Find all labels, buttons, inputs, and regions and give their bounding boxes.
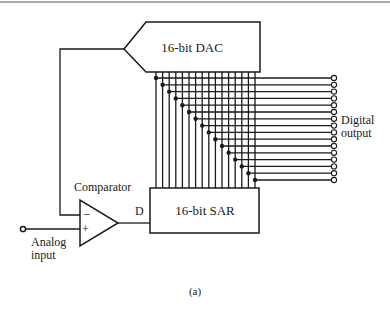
digital-output-terminal [331, 96, 336, 101]
junction-dot [233, 157, 237, 161]
digital-output-terminal [331, 143, 336, 148]
comparator: Comparator − + D [74, 180, 150, 246]
digital-output-terminal [331, 116, 336, 121]
bit-bus [154, 72, 337, 188]
comparator-output-label: D [135, 204, 144, 218]
junction-dot [220, 144, 224, 148]
junction-dot [174, 96, 178, 100]
junction-dot [207, 130, 211, 134]
sar-block: 16-bit SAR [150, 188, 259, 233]
dac-block: 16-bit DAC [124, 22, 260, 72]
comparator-label: Comparator [74, 180, 131, 194]
digital-output-terminal [331, 130, 336, 135]
digital-output-terminal [331, 103, 336, 108]
digital-output-terminal [331, 171, 336, 176]
sar-label: 16-bit SAR [175, 203, 235, 218]
digital-output-terminal [331, 75, 336, 80]
analog-input-label-line1: Analog [31, 235, 66, 249]
digital-output-label-line1: Digital [341, 113, 375, 127]
digital-output-terminal [331, 109, 336, 114]
digital-output-terminal [331, 82, 336, 87]
digital-output-terminal [331, 137, 336, 142]
junction-dot [226, 151, 230, 155]
junction-dot [193, 117, 197, 121]
digital-output-terminal [331, 89, 336, 94]
junction-dot [167, 89, 171, 93]
junction-dot [240, 164, 244, 168]
digital-output-terminal [331, 150, 336, 155]
figure-caption: (a) [189, 285, 202, 298]
junction-dot [246, 171, 250, 175]
sar-adc-diagram: 16-bit DAC 16-bit SAR Comparator − + D A… [0, 0, 390, 310]
junction-dot [180, 103, 184, 107]
analog-input-label-line2: input [31, 248, 56, 262]
digital-output-terminal [331, 123, 336, 128]
digital-output-label-line2: output [341, 126, 372, 140]
junction-dot [253, 178, 257, 182]
analog-input: Analog input [20, 226, 80, 262]
comparator-minus-symbol: − [83, 207, 90, 222]
digital-output-terminal [331, 177, 336, 182]
junction-dot [160, 83, 164, 87]
junction-dot [154, 76, 158, 80]
digital-output-terminal [331, 164, 336, 169]
junction-dot [213, 137, 217, 141]
junction-dot [187, 110, 191, 114]
comparator-plus-symbol: + [82, 222, 89, 236]
digital-output-terminal [331, 157, 336, 162]
dac-label: 16-bit DAC [161, 40, 223, 55]
junction-dot [200, 123, 204, 127]
analog-input-terminal [20, 226, 25, 231]
